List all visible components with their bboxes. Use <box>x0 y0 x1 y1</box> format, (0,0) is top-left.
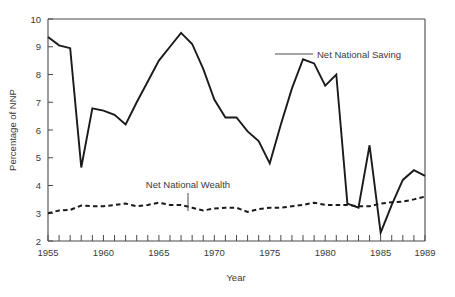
x-axis-title: Year <box>226 272 245 283</box>
y-tick-label: 10 <box>30 14 41 25</box>
x-tick-label: 1980 <box>315 247 336 258</box>
x-tick-label: 1965 <box>148 247 169 258</box>
y-tick-label: 9 <box>36 41 41 52</box>
y-tick-label: 7 <box>36 97 41 108</box>
chart-figure: 2345678910 19551960196519701975198019851… <box>0 0 455 297</box>
x-tick-label: 1960 <box>93 247 114 258</box>
annotation-label-saving: Net National Saving <box>317 49 401 60</box>
y-tick-label: 3 <box>36 208 41 219</box>
y-tick-label: 5 <box>36 152 41 163</box>
data-series-group <box>48 33 425 233</box>
annotation-label-wealth: Net National Wealth <box>146 179 230 190</box>
x-tick-label: 1985 <box>370 247 391 258</box>
y-axis: 2345678910 <box>30 14 53 247</box>
annotation-net-national-saving: Net National Saving <box>275 49 401 60</box>
y-tick-label: 6 <box>36 125 41 136</box>
annotation-net-national-wealth: Net National Wealth <box>146 179 230 211</box>
y-axis-title: Percentage of NNP <box>7 89 18 171</box>
x-axis: 19551960196519701975198019851989 <box>37 235 435 258</box>
y-tick-label: 8 <box>36 69 41 80</box>
line-chart: 2345678910 19551960196519701975198019851… <box>0 0 455 297</box>
y-tick-label: 4 <box>36 180 41 191</box>
y-tick-label: 2 <box>36 236 41 247</box>
series-net-national-wealth <box>48 197 425 214</box>
series-net-national-saving <box>48 33 425 233</box>
x-tick-label: 1955 <box>37 247 58 258</box>
x-tick-label: 1975 <box>259 247 280 258</box>
x-tick-label: 1989 <box>414 247 435 258</box>
x-tick-label: 1970 <box>204 247 225 258</box>
